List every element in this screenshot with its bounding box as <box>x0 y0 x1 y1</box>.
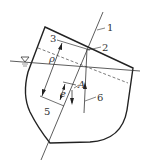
label-rho: ρ <box>48 53 55 64</box>
label-3: 3 <box>50 33 56 44</box>
arrow-head-icon <box>58 43 62 50</box>
waterline-symbol-icon <box>21 57 29 62</box>
label-1: 1 <box>107 22 113 33</box>
arrow-head-icon <box>42 89 46 96</box>
label-6: 6 <box>97 92 103 103</box>
label-2: 2 <box>102 42 108 53</box>
label-e: e <box>60 88 66 99</box>
leader-6 <box>85 97 96 101</box>
diagram-canvas: 1 2 3 ρ A e 5 6 <box>0 0 148 168</box>
label-A: A <box>77 79 85 90</box>
arrow-down-icon <box>70 98 74 105</box>
leader-1 <box>97 28 105 30</box>
label-5: 5 <box>44 106 50 117</box>
